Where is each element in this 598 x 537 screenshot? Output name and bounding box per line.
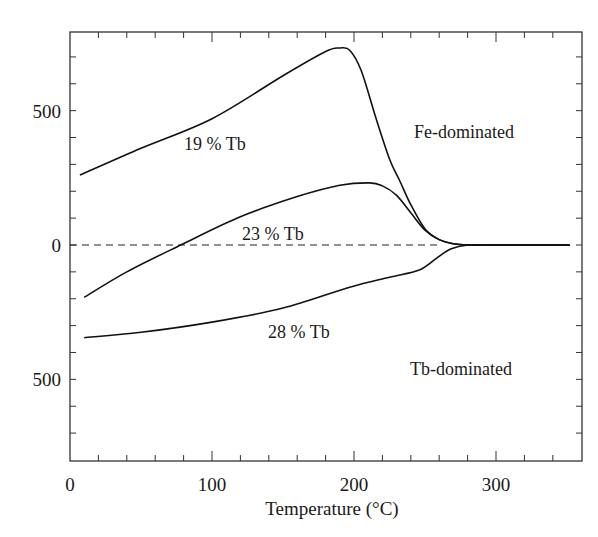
x-tick-label-200: 200 bbox=[340, 474, 369, 495]
axis-ticks bbox=[70, 32, 582, 461]
curve-23-tb bbox=[84, 183, 570, 298]
plot-frame bbox=[70, 32, 582, 461]
label-28-tb: 28 % Tb bbox=[268, 322, 330, 342]
x-tick-label-300: 300 bbox=[482, 474, 511, 495]
x-tick-label-100: 100 bbox=[198, 474, 227, 495]
label-23-tb: 23 % Tb bbox=[242, 224, 304, 244]
y-tick-label-0: 0 bbox=[52, 235, 62, 256]
label-19-tb: 19 % Tb bbox=[184, 134, 246, 154]
label-tb-dominated: Tb-dominated bbox=[410, 359, 512, 379]
curve-19-tb bbox=[80, 48, 570, 245]
chart: 0 100 200 300 500 0 500 Temperature (°C)… bbox=[0, 0, 598, 537]
label-fe-dominated: Fe-dominated bbox=[414, 122, 514, 142]
x-tick-label-0: 0 bbox=[65, 474, 75, 495]
y-tick-label-neg500: 500 bbox=[33, 369, 62, 390]
x-axis-title: Temperature (°C) bbox=[265, 498, 398, 520]
curves bbox=[80, 48, 570, 338]
y-tick-label-500: 500 bbox=[33, 101, 62, 122]
